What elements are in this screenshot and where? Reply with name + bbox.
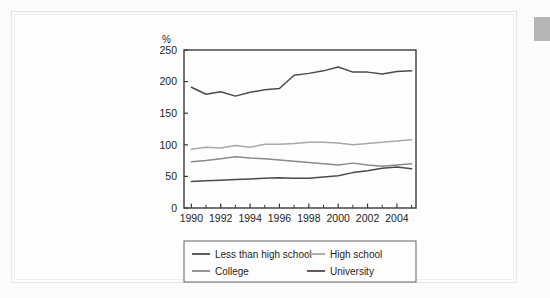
chart-legend: Less than high schoolHigh schoolCollegeU… bbox=[184, 241, 416, 282]
x-tick-label: 2004 bbox=[385, 212, 409, 224]
x-axis-tick-labels: 19901992199419961998200020022004 bbox=[180, 212, 409, 224]
right-edge-scrollbar-marker[interactable] bbox=[534, 17, 550, 41]
line-chart: % 050100150200250 1990199219941996199820… bbox=[142, 26, 442, 288]
x-tick-label: 1998 bbox=[297, 212, 321, 224]
series-line bbox=[191, 140, 411, 149]
y-tick-label: 200 bbox=[159, 75, 177, 87]
chart-container: % 050100150200250 1990199219941996199820… bbox=[142, 26, 442, 288]
content-card: % 050100150200250 1990199219941996199820… bbox=[11, 11, 517, 283]
x-tick-label: 1996 bbox=[268, 212, 292, 224]
legend-label: High school bbox=[330, 249, 382, 260]
y-axis-tick-labels: 050100150200250 bbox=[159, 44, 177, 214]
series-lines-group bbox=[191, 67, 411, 181]
x-tick-label: 2002 bbox=[356, 212, 380, 224]
series-line bbox=[191, 67, 411, 96]
x-tick-label: 1992 bbox=[209, 212, 233, 224]
legend-label: College bbox=[215, 266, 249, 277]
page-background: % 050100150200250 1990199219941996199820… bbox=[0, 0, 550, 298]
x-tick-label: 1994 bbox=[238, 212, 262, 224]
x-tick-label: 1990 bbox=[180, 212, 204, 224]
y-tick-label: 100 bbox=[159, 139, 177, 151]
y-tick-label: 50 bbox=[165, 170, 177, 182]
series-line bbox=[191, 167, 411, 182]
x-tick-label: 2000 bbox=[326, 212, 350, 224]
y-tick-label: 150 bbox=[159, 107, 177, 119]
y-tick-label: 0 bbox=[171, 202, 177, 214]
legend-label: Less than high school bbox=[215, 249, 312, 260]
y-tick-label: 250 bbox=[159, 44, 177, 56]
legend-label: University bbox=[330, 266, 374, 277]
series-line bbox=[191, 157, 411, 166]
